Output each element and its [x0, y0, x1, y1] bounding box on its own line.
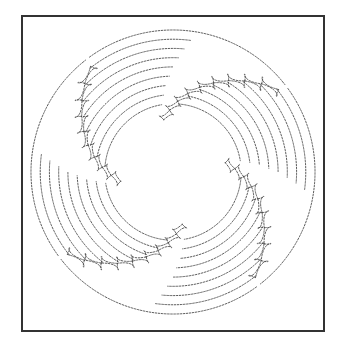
- feather-loop-outer: [197, 81, 213, 87]
- feather-loop-inner: [225, 163, 235, 173]
- fan-arc: [59, 167, 103, 262]
- feather-loop-outer: [244, 74, 261, 84]
- fan-arc: [77, 176, 133, 259]
- fan-arc: [156, 276, 257, 305]
- outer-rim-arc: [90, 30, 285, 85]
- fan-arc: [83, 58, 178, 102]
- fan-arc: [277, 89, 306, 190]
- feather-loop-outer: [101, 263, 118, 270]
- feather-loop-outer: [212, 76, 229, 82]
- fan-arc: [177, 212, 260, 268]
- feather-loop-inner: [249, 261, 262, 278]
- fan-arc: [86, 76, 169, 132]
- feather-segments: [31, 30, 315, 314]
- fan-arc: [188, 96, 250, 162]
- outer-rim-arc: [260, 89, 315, 284]
- feather-loop-outer: [75, 100, 82, 117]
- feather-loop-outer: [77, 116, 83, 133]
- fan-arc: [243, 82, 287, 177]
- feather-loop-outer: [82, 131, 88, 147]
- feather-loop-outer: [132, 257, 148, 263]
- feather-loop-outer: [228, 74, 245, 81]
- outer-rim-arc: [31, 60, 86, 255]
- feather-loop-inner: [164, 110, 174, 120]
- feather-loop-outer: [84, 260, 101, 270]
- feather-loop-outer: [235, 164, 244, 176]
- feather-loop-outer: [261, 243, 271, 260]
- fan-arc: [168, 242, 263, 286]
- fan-arc: [183, 187, 249, 249]
- feather-loop-outer: [258, 196, 264, 212]
- fan-arc: [106, 183, 168, 240]
- feather-loop-outer: [117, 261, 134, 267]
- fan-arc: [213, 85, 269, 168]
- feather-loop-inner: [85, 66, 98, 83]
- fan-arc: [179, 104, 241, 161]
- fan-arc: [105, 105, 162, 167]
- feather-loop-outer: [262, 211, 268, 228]
- fan-arc: [90, 39, 191, 68]
- outer-rim-arc: [61, 259, 256, 314]
- feather-loop-inner: [67, 248, 84, 261]
- feather-loop-inner: [262, 84, 279, 97]
- feather-loop-outer: [176, 224, 186, 234]
- fan-arc: [96, 182, 158, 248]
- feather-loop-outer: [168, 234, 180, 243]
- feather-loop-outer: [75, 83, 85, 100]
- feather-loop-outer: [111, 175, 121, 185]
- feather-loop-inner: [172, 224, 182, 234]
- feather-loop-outer: [225, 158, 235, 168]
- fan-arc: [184, 178, 241, 240]
- feather-loop-outer: [165, 101, 177, 110]
- feather-loop-outer: [159, 110, 169, 120]
- feather-loop-outer: [264, 227, 271, 244]
- feather-loop-inner: [111, 171, 121, 181]
- quilt-pattern: [0, 0, 344, 339]
- feather-loop-outer: [102, 167, 111, 179]
- fan-arc: [40, 155, 69, 256]
- fan-arc: [97, 95, 163, 157]
